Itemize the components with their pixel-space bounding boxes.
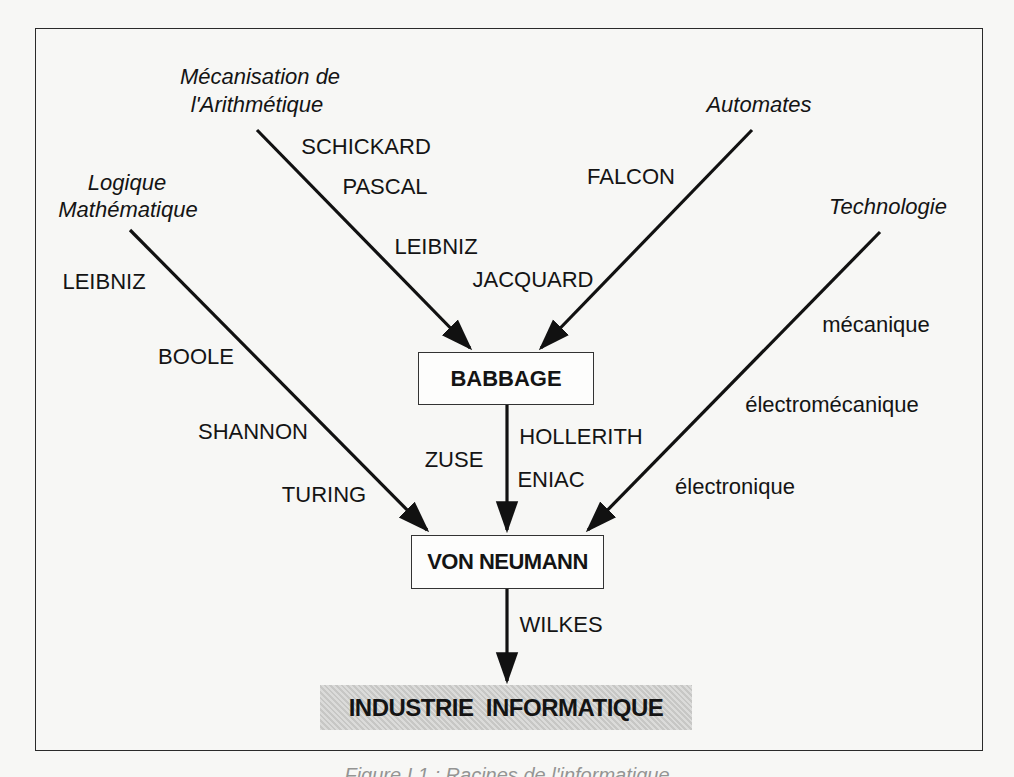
node-industry: INDUSTRIE INFORMATIQUE [320, 685, 692, 730]
name-wilkes: WILKES [519, 612, 602, 638]
node-babbage: BABBAGE [418, 352, 594, 405]
stage-electromecanique: électromécanique [745, 392, 919, 418]
name-pascal: PASCAL [342, 174, 427, 200]
figure-caption: Figure I.1 : Racines de l'informatique [0, 764, 1014, 777]
name-boole: BOOLE [158, 344, 234, 370]
source-arithmetic-line1: Mécanisation de [180, 64, 340, 90]
name-falcon: FALCON [587, 164, 675, 190]
node-babbage-label: BABBAGE [450, 366, 561, 392]
source-automata: Automates [706, 92, 811, 118]
name-eniac: ENIAC [517, 467, 584, 493]
node-von-neumann: VON NEUMANN [411, 535, 604, 589]
source-logic-line2: Mathématique [58, 197, 197, 223]
arrow-logic-to-von-neumann [130, 230, 427, 530]
name-shannon: SHANNON [198, 419, 308, 445]
name-schickard: SCHICKARD [301, 134, 431, 160]
name-leibniz-logic: LEIBNIZ [62, 269, 145, 295]
node-von-neumann-label: VON NEUMANN [427, 549, 588, 575]
source-technology: Technologie [829, 194, 947, 220]
name-zuse: ZUSE [425, 447, 484, 473]
arrow-automata-to-babbage [541, 130, 752, 348]
source-logic-line1: Logique [88, 170, 166, 196]
name-hollerith: HOLLERITH [519, 424, 642, 450]
stage-mecanique: mécanique [822, 312, 930, 338]
source-arithmetic-line2: l'Arithmétique [191, 92, 324, 118]
stage-electronique: électronique [675, 474, 795, 500]
name-jacquard: JACQUARD [472, 267, 593, 293]
name-turing: TURING [282, 482, 366, 508]
node-industry-label: INDUSTRIE INFORMATIQUE [349, 694, 664, 722]
name-leibniz-arith: LEIBNIZ [394, 234, 477, 260]
